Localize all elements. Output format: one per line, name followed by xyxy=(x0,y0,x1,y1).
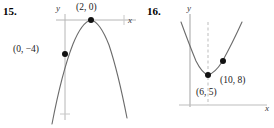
point-marker-intercept-15 xyxy=(62,51,68,57)
figure-15-plot xyxy=(0,0,137,128)
y-axis-label-15: y xyxy=(56,4,60,13)
parabola-curve-15 xyxy=(52,20,127,124)
point-label-vertex-16: (6, 5) xyxy=(196,88,217,98)
x-axis-label-16: x xyxy=(265,104,269,113)
figure-15: 15. y x (2, 0) (0, −4) xyxy=(0,0,137,128)
figure-16-plot xyxy=(137,0,274,128)
x-axis-label-15: x xyxy=(128,16,132,25)
point-label-intercept-15: (0, −4) xyxy=(13,45,39,55)
point-label-vertex-15: (2, 0) xyxy=(76,3,97,13)
point-marker-secondary-16 xyxy=(220,58,226,64)
point-label-secondary-16: (10, 8) xyxy=(220,76,245,86)
exercise-figure-pair: 15. y x (2, 0) (0, −4) 16. xyxy=(0,0,274,128)
figure-16: 16. y x (6, 5) (10, 8) xyxy=(137,0,274,128)
point-marker-vertex-16 xyxy=(205,72,211,78)
y-axis-label-16: y xyxy=(187,4,191,13)
point-marker-vertex-15 xyxy=(88,17,94,23)
